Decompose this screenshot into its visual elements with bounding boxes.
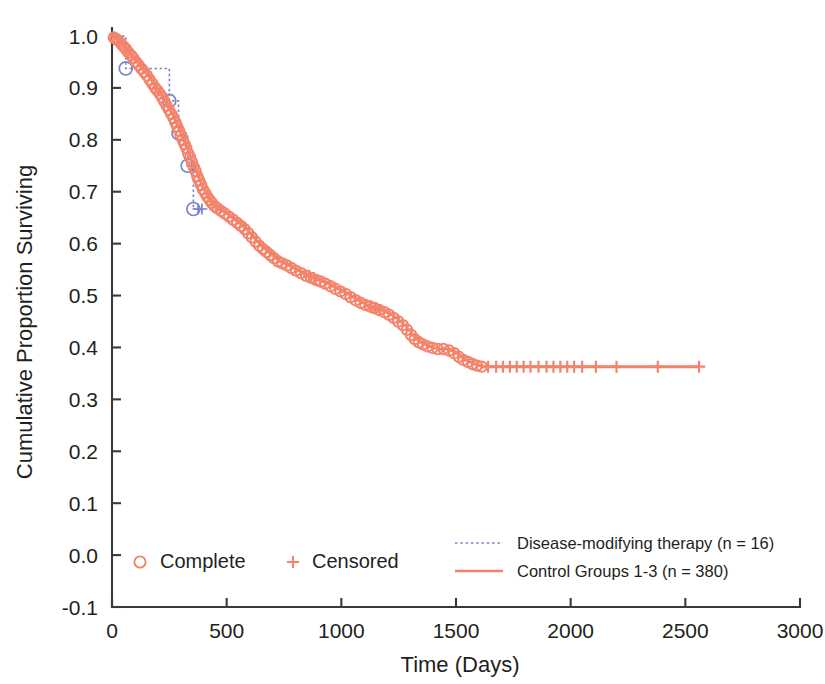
y-axis-tick-label: 0.3 [69,388,98,411]
y-axis-tick-label: 0.2 [69,440,98,463]
plot-background [0,0,825,684]
y-axis-tick-label: 0.8 [69,128,98,151]
y-axis-tick-label: 0.7 [69,180,98,203]
legend-complete-label: Complete [160,550,246,572]
x-axis-tick-label: 1000 [318,619,365,642]
y-axis-tick-label: 0.6 [69,232,98,255]
y-axis-tick-label: 0.9 [69,76,98,99]
x-axis-tick-label: 3000 [777,619,824,642]
y-axis-title: Cumulative Proportion Surviving [12,165,37,479]
x-axis-tick-label: 2500 [662,619,709,642]
legend-therapy-label: Disease-modifying therapy (n = 16) [517,534,774,552]
x-axis-tick-label: 1500 [433,619,480,642]
x-axis-tick-label: 0 [106,619,118,642]
y-axis-tick-label: -0.1 [62,596,98,619]
legend-censored-label: Censored [312,550,399,572]
legend-control-label: Control Groups 1-3 (n = 380) [517,562,728,580]
x-axis-tick-label: 2000 [547,619,594,642]
x-axis-title: Time (Days) [401,652,520,677]
y-axis-tick-label: 1.0 [69,25,98,48]
kaplan-meier-chart: -0.10.00.10.20.30.40.50.60.70.80.91.0 05… [0,0,825,684]
x-axis-tick-label: 500 [209,619,244,642]
y-axis-tick-label: 0.5 [69,284,98,307]
y-axis-tick-label: 0.1 [69,492,98,515]
y-axis-tick-label: 0.4 [69,336,99,359]
y-axis-tick-label: 0.0 [69,544,98,567]
survival-plot-svg: -0.10.00.10.20.30.40.50.60.70.80.91.0 05… [0,0,825,684]
